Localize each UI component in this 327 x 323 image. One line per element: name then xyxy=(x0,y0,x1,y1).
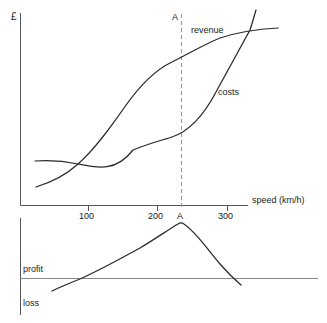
profit-region-label: profit xyxy=(23,265,43,274)
figure-canvas xyxy=(0,0,327,323)
marker-a-axis: A xyxy=(177,212,183,221)
curve-profit xyxy=(52,223,241,291)
marker-a-top: A xyxy=(172,13,178,22)
y-axis-currency-label: £ xyxy=(11,12,17,22)
economics-break-even-figure: £ A revenue costs 100 200 A 300 speed (k… xyxy=(0,0,327,323)
loss-region-label: loss xyxy=(23,299,39,308)
series-label-costs: costs xyxy=(218,88,239,97)
xtick-label-100: 100 xyxy=(79,212,94,221)
series-label-revenue: revenue xyxy=(191,26,224,35)
upper-chart-group xyxy=(21,10,279,211)
xtick-label-300: 300 xyxy=(218,212,233,221)
xtick-label-200: 200 xyxy=(148,212,163,221)
lower-chart-group xyxy=(21,218,319,315)
x-axis-label: speed (km/h) xyxy=(252,196,305,205)
